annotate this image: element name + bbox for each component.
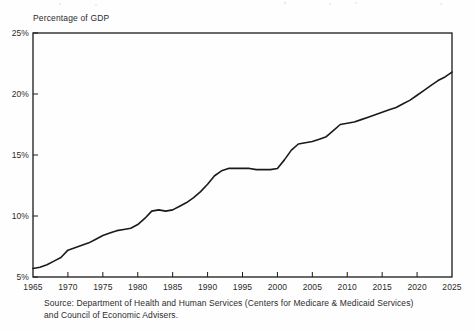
- x-tick-label: 2025: [432, 282, 472, 292]
- chart-page: Percentage of GDP 5%10%15%20%25% 1965197…: [0, 0, 475, 331]
- y-tick-label: 10%: [1, 211, 29, 221]
- y-axis-ticks: [33, 33, 38, 277]
- y-tick-label: 15%: [1, 150, 29, 160]
- x-axis-ticks: [68, 272, 417, 277]
- y-tick-label: 25%: [1, 28, 29, 38]
- plot-frame: [33, 33, 452, 277]
- y-tick-label: 20%: [1, 89, 29, 99]
- data-series-line: [33, 72, 452, 268]
- source-line-1: Source: Department of Health and Human S…: [44, 298, 464, 310]
- source-note: Source: Department of Health and Human S…: [44, 298, 464, 321]
- source-line-2: and Council of Economic Advisers.: [44, 310, 464, 322]
- y-tick-label: 5%: [1, 272, 29, 282]
